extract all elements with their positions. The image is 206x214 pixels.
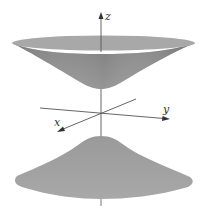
x-axis-label: x xyxy=(54,116,61,129)
hyperboloid-figure: z y x xyxy=(0,0,206,214)
upper-sheet-rim xyxy=(12,36,195,51)
upper-sheet xyxy=(12,36,195,90)
z-axis-label: z xyxy=(104,10,111,23)
lower-sheet-body xyxy=(15,136,193,199)
z-axis-arrow-icon xyxy=(99,12,104,19)
y-axis-arrow-icon xyxy=(162,116,170,121)
y-axis-label: y xyxy=(162,103,170,116)
x-axis xyxy=(62,99,136,130)
lower-sheet xyxy=(15,136,193,199)
